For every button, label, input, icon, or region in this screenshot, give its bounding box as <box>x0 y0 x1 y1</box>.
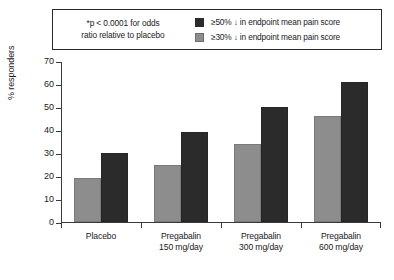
y-axis-tick <box>56 177 61 178</box>
y-axis-tick <box>56 62 61 63</box>
legend-footnote-line2: ratio relative to placebo <box>81 30 164 40</box>
x-axis-tick <box>301 223 302 228</box>
y-axis-title: % responders <box>6 46 16 100</box>
y-axis-tick-label: 20 <box>30 172 54 181</box>
bar-30pct <box>74 178 101 222</box>
legend-label-30pct: ≥30% ↓ in endpoint mean pain score <box>211 32 340 42</box>
bar-50pct <box>341 82 368 222</box>
legend-swatch-gray-icon <box>195 33 204 42</box>
bar-50pct <box>181 132 208 222</box>
y-axis-tick <box>56 200 61 201</box>
chart-legend: *p < 0.0001 for odds ratio relative to p… <box>52 9 382 50</box>
x-axis-category-label: Pregabalin600 mg/day <box>301 231 381 253</box>
x-category-line1: Pregabalin <box>161 231 201 241</box>
x-axis-category-label: Pregabalin150 mg/day <box>141 231 221 253</box>
x-category-line1: Pregabalin <box>321 231 361 241</box>
y-axis-line <box>61 62 62 223</box>
y-axis-tick-label: 70 <box>30 57 54 66</box>
legend-footnote-line1: *p < 0.0001 for odds <box>87 18 160 28</box>
y-axis-tick <box>56 85 61 86</box>
x-axis-category-label: Pregabalin300 mg/day <box>221 231 301 253</box>
x-category-line1: Placebo <box>86 231 116 241</box>
x-category-line2: 150 mg/day <box>141 242 221 253</box>
bar-30pct <box>154 165 181 223</box>
y-axis-tick-label: 0 <box>30 218 54 227</box>
bar-50pct <box>261 107 288 222</box>
y-axis-tick-label: 60 <box>30 80 54 89</box>
y-axis-tick-label: 40 <box>30 126 54 135</box>
x-category-line1: Pregabalin <box>241 231 281 241</box>
responder-rate-bar-chart: *p < 0.0001 for odds ratio relative to p… <box>0 0 394 280</box>
legend-item-30pct: ≥30% ↓ in endpoint mean pain score <box>195 32 381 42</box>
y-axis-tick <box>56 108 61 109</box>
x-category-line2: 300 mg/day <box>221 242 301 253</box>
legend-entry-list: ≥50% ↓ in endpoint mean pain score ≥30% … <box>191 17 381 42</box>
legend-item-50pct: ≥50% ↓ in endpoint mean pain score <box>195 17 381 27</box>
legend-swatch-dark-icon <box>195 18 204 27</box>
legend-footnote: *p < 0.0001 for odds ratio relative to p… <box>53 18 191 41</box>
bar-50pct <box>101 153 128 222</box>
x-axis-tick <box>221 223 222 228</box>
y-axis-tick <box>56 131 61 132</box>
x-axis-category-label: Placebo <box>61 231 141 242</box>
bar-30pct <box>314 116 341 222</box>
bar-30pct <box>234 144 261 222</box>
x-axis-tick <box>380 223 381 228</box>
legend-label-50pct: ≥50% ↓ in endpoint mean pain score <box>211 17 340 27</box>
y-axis-tick-label: 30 <box>30 149 54 158</box>
y-axis-tick-label: 50 <box>30 103 54 112</box>
x-axis-tick <box>141 223 142 228</box>
y-axis-tick <box>56 154 61 155</box>
plot-area: 010203040506070 <box>61 62 381 223</box>
x-axis-tick <box>61 223 62 228</box>
y-axis-tick-label: 10 <box>30 195 54 204</box>
x-category-line2: 600 mg/day <box>301 242 381 253</box>
